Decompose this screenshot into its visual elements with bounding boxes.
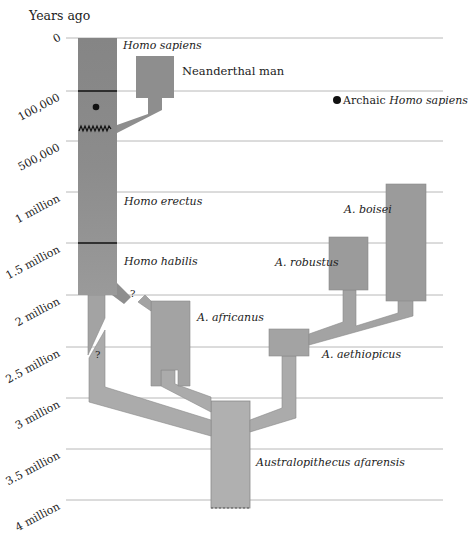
- homo-lineage-connector: [89, 330, 211, 436]
- label-a-robustus: A. robustus: [275, 256, 339, 269]
- africanus-stub: [138, 295, 151, 311]
- homo-column: [78, 38, 117, 295]
- aethiopicus-connector: [250, 356, 296, 432]
- uncertain-marker: ?: [95, 349, 100, 360]
- label-a-afarensis: Australopithecus afarensis: [256, 456, 405, 469]
- legend-prefix: Archaic: [343, 94, 389, 107]
- legend-dot-icon: [333, 96, 341, 104]
- uncertain-marker: ?: [130, 288, 135, 299]
- label-a-africanus: A. africanus: [197, 311, 264, 324]
- label-homo-habilis: Homo habilis: [124, 255, 198, 268]
- label-homo-erectus: Homo erectus: [124, 195, 202, 208]
- neanderthal-branch: [117, 56, 174, 133]
- label-neanderthal: Neanderthal man: [182, 64, 284, 78]
- aethiopicus-node: [269, 329, 309, 356]
- legend-italic: Homo sapiens: [389, 94, 468, 107]
- boisei-column: [386, 184, 426, 301]
- label-a-aethiopicus: A. aethiopicus: [322, 348, 401, 361]
- legend-archaic: Archaic Homo sapiens: [333, 94, 468, 107]
- afarensis-branch: [211, 401, 250, 508]
- archaic-dot: [93, 104, 100, 111]
- label-a-boisei: A. boisei: [344, 203, 392, 216]
- label-homo-sapiens: Homo sapiens: [123, 39, 202, 52]
